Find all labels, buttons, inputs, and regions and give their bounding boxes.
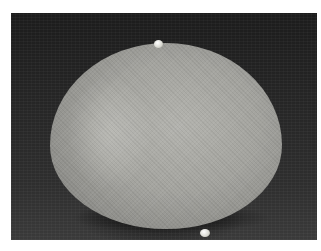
small-egg-bottom bbox=[200, 229, 210, 237]
photograph bbox=[11, 13, 317, 240]
small-egg-top bbox=[154, 40, 163, 48]
